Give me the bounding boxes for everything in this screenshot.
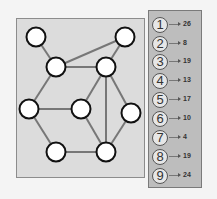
legend-number-badge: 9 — [152, 168, 168, 184]
arrow-right-icon — [169, 156, 179, 157]
legend-value: 10 — [183, 114, 191, 121]
graph-node — [122, 104, 141, 123]
legend-number-badge: 2 — [152, 36, 168, 52]
legend-number-badge: 5 — [152, 92, 168, 108]
legend-item-3: 3 19 — [149, 54, 203, 72]
legend-value: 17 — [183, 95, 191, 102]
graph-node — [20, 100, 39, 119]
arrow-right-icon — [169, 24, 179, 25]
legend-panel: 1 26 2 8 3 19 4 13 5 17 6 10 — [148, 10, 202, 188]
legend-value: 8 — [183, 39, 187, 46]
legend-value: 13 — [183, 76, 191, 83]
legend-value: 24 — [183, 171, 191, 178]
legend-item-7: 7 4 — [149, 130, 203, 148]
arrow-right-icon — [169, 99, 179, 100]
legend-value: 19 — [183, 57, 191, 64]
legend-value: 19 — [183, 152, 191, 159]
arrow-right-icon — [169, 118, 179, 119]
legend-number-badge: 1 — [152, 17, 168, 33]
graph-node — [47, 58, 66, 77]
legend-item-4: 4 13 — [149, 73, 203, 91]
arrow-right-icon — [169, 137, 179, 138]
arrow-right-icon — [169, 61, 179, 62]
graph-node — [116, 28, 135, 47]
legend-number-badge: 8 — [152, 149, 168, 165]
legend-number-badge: 3 — [152, 54, 168, 70]
graph-node — [27, 28, 46, 47]
arrow-right-icon — [169, 80, 179, 81]
arrow-right-icon — [169, 43, 179, 44]
legend-item-6: 6 10 — [149, 111, 203, 129]
legend-item-9: 9 24 — [149, 168, 203, 186]
legend-item-2: 2 8 — [149, 36, 203, 54]
graph-node — [97, 143, 116, 162]
legend-number-badge: 7 — [152, 130, 168, 146]
diagram-stage: 1 26 2 8 3 19 4 13 5 17 6 10 — [0, 0, 217, 199]
legend-item-1: 1 26 — [149, 17, 203, 35]
legend-item-5: 5 17 — [149, 92, 203, 110]
graph-node — [72, 100, 91, 119]
legend-item-8: 8 19 — [149, 149, 203, 167]
legend-value: 26 — [183, 20, 191, 27]
arrow-right-icon — [169, 175, 179, 176]
graph-node — [47, 143, 66, 162]
graph-edges — [29, 37, 131, 152]
legend-number-badge: 6 — [152, 111, 168, 127]
legend-value: 4 — [183, 133, 187, 140]
graph-node — [97, 58, 116, 77]
legend-number-badge: 4 — [152, 73, 168, 89]
